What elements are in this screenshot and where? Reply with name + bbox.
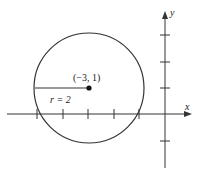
center-point-icon [86,85,91,90]
y-axis-arrow-icon [162,11,168,19]
radius-label: r = 2 [50,94,71,105]
diagram: x y r = 2 (−3, 1) [0,0,198,178]
x-axis: x [7,101,192,119]
center-label: (−3, 1) [73,72,100,84]
y-axis-label: y [169,7,175,18]
y-axis: y [160,7,175,168]
x-axis-label: x [184,101,190,112]
